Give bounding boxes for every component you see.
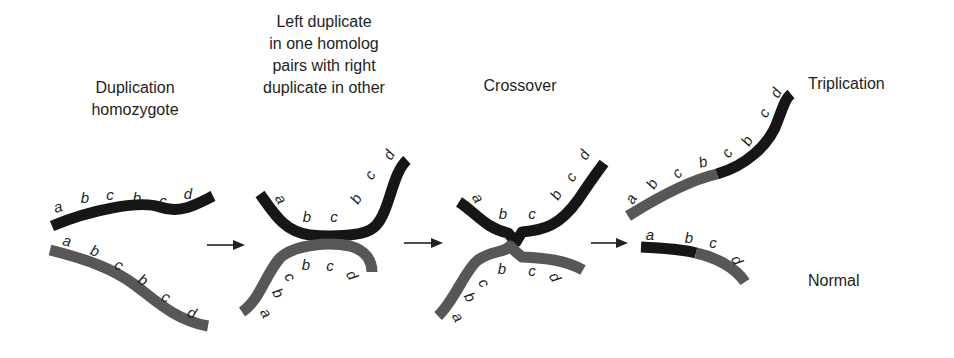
gene-label-a: a: [272, 191, 291, 207]
dark-chromosome-strand: [641, 247, 696, 253]
gene-label-b: b: [642, 176, 661, 192]
gene-label-b: b: [81, 189, 89, 206]
gene-label-c: c: [717, 145, 736, 160]
gene-label-b: b: [135, 270, 151, 289]
gene-label-d: d: [379, 146, 398, 162]
gene-label-a: a: [449, 309, 468, 325]
gray-chromosome-strand: [438, 246, 583, 316]
gray-chromosome-strand: [628, 174, 717, 216]
gene-label-a: a: [621, 191, 640, 207]
gray-chromosome-strand: [50, 250, 208, 326]
caption-line: in one homolog: [244, 33, 404, 55]
gene-label-c: c: [106, 186, 114, 203]
gene-label-d: d: [343, 267, 362, 283]
gene-label-a: a: [52, 197, 64, 216]
gene-label-b: b: [461, 289, 480, 305]
gene-label-b: b: [133, 189, 141, 206]
gene-label-c: c: [281, 269, 300, 284]
gene-label-c: c: [159, 192, 167, 209]
gene-label-b: b: [303, 208, 311, 225]
gene-label-a: a: [646, 226, 654, 243]
gene-label-b: b: [88, 241, 102, 260]
gene-label-c: c: [159, 287, 174, 306]
gene-label-b: b: [685, 229, 693, 246]
gene-label-c: c: [561, 169, 580, 184]
caption-crossover: Crossover: [465, 75, 575, 97]
dark-chromosome-strand: [459, 163, 604, 242]
gene-label-b: b: [498, 260, 506, 277]
caption-left-pairs-right: Left duplicate in one homolog pairs with…: [244, 11, 404, 99]
gene-label-b: b: [269, 285, 288, 301]
gene-label-c: c: [668, 164, 686, 182]
gene-label-b: b: [737, 133, 756, 149]
caption-line: duplicate in other: [244, 77, 404, 99]
duplication-crossover-diagram: abcbcdabcbcdabcbcdabcbcdabcbcdabcbcdabcb…: [0, 0, 954, 358]
gene-label-b: b: [302, 256, 310, 273]
gene-label-b: b: [546, 187, 565, 203]
dark-chromosome-strand: [717, 94, 791, 174]
caption-line: Left duplicate: [244, 11, 404, 33]
gene-label-c: c: [475, 275, 494, 290]
gene-label-c: c: [360, 167, 379, 182]
gene-label-c: c: [754, 105, 773, 120]
gene-label-c: c: [709, 234, 717, 251]
gene-label-c: c: [528, 262, 536, 279]
arrow-right-icon: [404, 238, 443, 248]
caption-line: pairs with right: [244, 55, 404, 77]
gene-label-a: a: [469, 190, 488, 206]
caption-duplication-homozygote: Duplication homozygote: [74, 77, 196, 121]
arrow-right-icon: [207, 240, 245, 250]
caption-normal: Normal: [808, 270, 888, 292]
caption-line: Normal: [808, 270, 888, 292]
gene-label-a: a: [257, 305, 276, 321]
arrow-right-icon: [591, 238, 628, 248]
gene-label-b: b: [346, 191, 365, 207]
caption-line: homozygote: [74, 99, 196, 121]
caption-line: Triplication: [808, 73, 908, 95]
gene-label-d: d: [184, 185, 193, 202]
gene-label-c: c: [528, 205, 536, 222]
caption-line: Duplication: [74, 77, 196, 99]
gene-label-d: d: [574, 146, 593, 162]
gene-label-c: c: [112, 255, 127, 274]
caption-triplication: Triplication: [808, 73, 908, 95]
gene-label-b: b: [697, 152, 709, 171]
gene-label-c: c: [326, 257, 334, 274]
chromosome-strands: [50, 94, 791, 326]
gene-label-c: c: [330, 208, 338, 225]
gene-label-a: a: [61, 231, 73, 250]
caption-line: Crossover: [465, 75, 575, 97]
gene-label-d: d: [546, 269, 565, 285]
process-arrows: [207, 238, 628, 250]
gene-label-b: b: [499, 205, 507, 222]
